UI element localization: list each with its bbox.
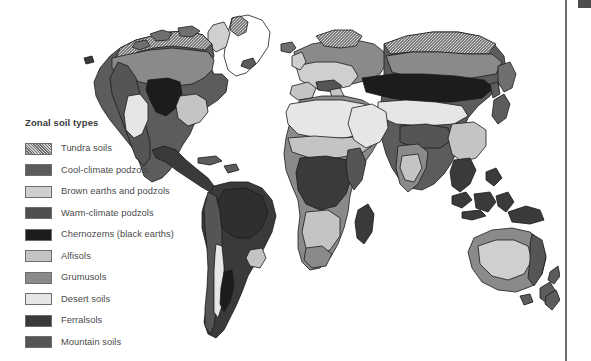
legend-swatch-tundra-soils (25, 143, 52, 155)
legend-label-mountain-soils: Mountain soils (61, 337, 121, 348)
legend-item-chernozems: Chernozems (black earths) (25, 224, 235, 246)
legend-label-alfisols: Alfisols (61, 251, 91, 262)
world-soil-map-figure: Zonal soil types Tundra soils Cool-clima… (0, 0, 591, 361)
legend-swatch-chernozems (25, 229, 52, 241)
map-region-iceland (281, 42, 296, 53)
legend-item-alfisols: Alfisols (25, 246, 235, 268)
legend-label-chernozems: Chernozems (black earths) (61, 229, 174, 240)
map-region-se-asia (450, 158, 476, 192)
map-region-madagascar (355, 204, 374, 244)
map-region-japan (492, 94, 510, 124)
legend-swatch-grumusols (25, 272, 52, 284)
legend-swatch-desert-soils (25, 293, 52, 305)
map-region-himalaya (400, 124, 452, 148)
legend-swatch-ferralsols (25, 315, 52, 327)
map-region-borneo (474, 192, 496, 212)
legend-swatch-alfisols (25, 250, 52, 262)
map-region-tasmania (520, 294, 533, 305)
legend-item-desert-soils: Desert soils (25, 289, 235, 311)
legend-label-grumusols: Grumusols (61, 272, 106, 283)
map-region-sumatra (452, 192, 472, 208)
map-region-new-guinea (508, 206, 544, 224)
legend-item-tundra-soils: Tundra soils (25, 138, 235, 160)
legend-label-tundra-soils: Tundra soils (61, 143, 112, 154)
page-divider-rule (565, 0, 567, 361)
legend-label-brown-earths-and-podzols: Brown earths and podzols (61, 186, 170, 197)
map-region-kamchatka (498, 62, 516, 92)
legend-item-cool-climate-podzols: Cool-climate podzols (25, 160, 235, 182)
legend-title: Zonal soil types (25, 117, 235, 128)
map-region-sulawesi (496, 192, 514, 212)
map-region-sakhalin (490, 82, 500, 98)
map-region-siberia-tundra (384, 32, 496, 54)
legend-label-cool-climate-podzols: Cool-climate podzols (61, 165, 148, 176)
map-region-new-zealand-north (548, 266, 560, 284)
map-region-stray-mark-nw (84, 56, 94, 64)
legend-swatch-warm-climate-podzols (25, 207, 52, 219)
corner-marker (578, 0, 591, 8)
map-region-australia-east (528, 234, 546, 286)
legend: Zonal soil types Tundra soils Cool-clima… (25, 117, 235, 353)
legend-label-desert-soils: Desert soils (61, 294, 110, 305)
legend-swatch-brown-earths-and-podzols (25, 186, 52, 198)
legend-swatch-mountain-soils (25, 336, 52, 348)
map-region-philippines (486, 168, 502, 186)
legend-label-warm-climate-podzols: Warm-climate podzols (61, 208, 154, 219)
map-region-java (462, 210, 486, 220)
legend-item-warm-climate-podzols: Warm-climate podzols (25, 203, 235, 225)
legend-swatch-cool-climate-podzols (25, 164, 52, 176)
legend-item-ferralsols: Ferralsols (25, 310, 235, 332)
legend-label-ferralsols: Ferralsols (61, 315, 102, 326)
legend-item-brown-earths-and-podzols: Brown earths and podzols (25, 181, 235, 203)
map-region-iberia (290, 82, 316, 100)
legend-item-grumusols: Grumusols (25, 267, 235, 289)
legend-item-mountain-soils: Mountain soils (25, 332, 235, 354)
